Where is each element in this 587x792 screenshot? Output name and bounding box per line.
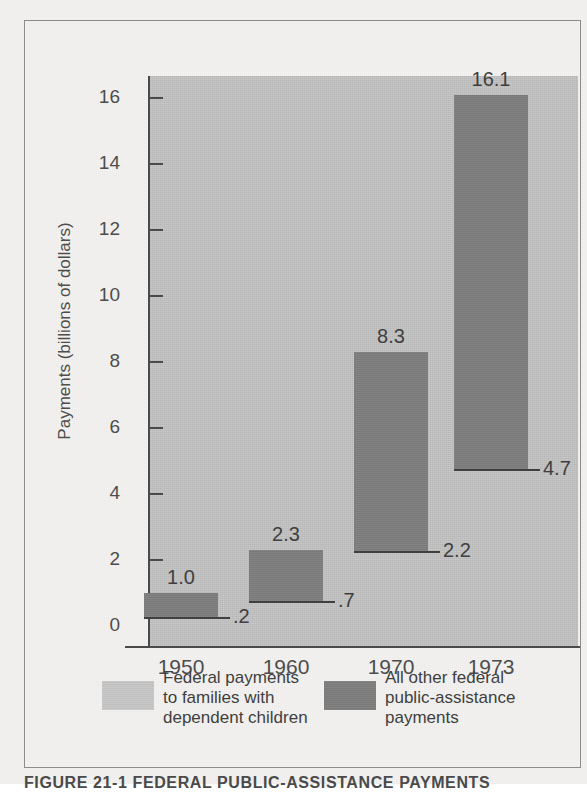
bar-1970 [354,352,428,553]
y-axis-tick [150,295,163,297]
y-axis-tick [150,493,163,495]
y-axis-tick [150,559,163,561]
bar-bottom-rule-1960 [249,601,335,603]
legend-swatch-dark-gray [324,681,376,710]
bar-top-value-1950: 1.0 [126,566,236,589]
bar-bottom-rule-1973 [454,469,540,471]
legend-entry-dark-gray: All other federal public-assistance paym… [324,668,515,728]
y-axis-tick-label: 0 [86,614,120,636]
y-axis-tick-label: 16 [86,86,120,108]
y-axis-tick [150,163,163,165]
bar-top-value-1973: 16.1 [436,68,546,91]
y-axis-tick-label: 4 [86,482,120,504]
y-axis-tick [150,361,163,363]
y-axis-tick-label: 12 [86,218,120,240]
bar-bottom-value-1973: 4.7 [543,457,571,480]
y-axis-tick-label: 8 [86,350,120,372]
bar-1973 [454,95,528,471]
bar-bottom-value-1970: 2.2 [443,539,471,562]
y-axis-tick [150,229,163,231]
legend-entry-light-gray: Federal payments to families with depend… [102,668,308,728]
y-axis-tick-label: 6 [86,416,120,438]
y-axis-title: Payments (billions of dollars) [55,181,75,481]
bar-top-value-1960: 2.3 [231,523,341,546]
legend-swatch-light-gray [102,681,154,710]
legend-label: All other federal public-assistance paym… [385,668,515,728]
y-axis-tick [150,427,163,429]
bar-1960 [249,550,323,603]
y-axis-tick-label: 2 [86,548,120,570]
bar-1950 [144,593,218,619]
y-axis-tick [150,97,163,99]
x-axis-line [125,646,580,648]
bar-bottom-value-1960: .7 [338,589,355,612]
figure-frame: Payments (billions of dollars) 024681012… [24,20,581,768]
chart-legend: Federal payments to families with depend… [24,668,581,744]
figure-caption: FIGURE 21-1 FEDERAL PUBLIC-ASSISTANCE PA… [24,774,584,792]
legend-label: Federal payments to families with depend… [163,668,308,728]
bar-bottom-rule-1950 [144,617,230,619]
bar-top-value-1970: 8.3 [336,325,446,348]
bar-bottom-rule-1970 [354,551,440,553]
y-axis-tick-label: 10 [86,284,120,306]
bar-bottom-value-1950: .2 [233,605,250,628]
y-axis-tick-label: 14 [86,152,120,174]
